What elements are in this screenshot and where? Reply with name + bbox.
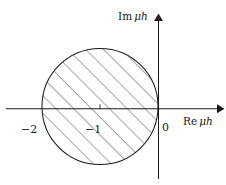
imaginary-axis-label-symbol: μh — [134, 10, 148, 22]
complex-plane-diagram — [0, 0, 226, 185]
tick-label-zero: 0 — [162, 122, 169, 133]
up-arrow-icon — [154, 14, 163, 22]
stability-region-figure: −2 −1 0 Im μh Re μh — [0, 0, 226, 185]
tick-label-minus-two: −2 — [21, 124, 37, 135]
imaginary-axis-label: Im μh — [118, 11, 148, 22]
right-arrow-icon — [217, 104, 225, 113]
real-axis-label-symbol: μh — [199, 115, 213, 127]
imaginary-axis-label-prefix: Im — [118, 10, 132, 22]
real-axis-label-prefix: Re — [183, 115, 197, 127]
tick-label-minus-one: −1 — [85, 124, 101, 135]
real-axis-label: Re μh — [183, 116, 213, 127]
